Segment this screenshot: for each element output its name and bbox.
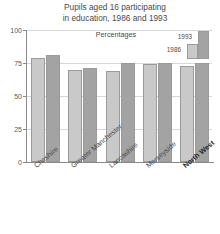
y-tick-label-75: 75 [2,60,22,67]
bar-merseyside-1986 [143,64,157,162]
y-tick-label-0: 0 [2,159,22,166]
bar-lancashire-1986 [106,71,120,162]
legend-label-1993: 1993 [178,33,192,40]
y-tick-label-100: 100 [2,27,22,34]
y-tick-mark-25 [23,129,26,130]
chart-title-line-2: in education, 1986 and 1993 [30,13,200,24]
y-tick-label-50: 50 [2,93,22,100]
y-tick-label-25: 25 [2,126,22,133]
bar-greater-manchester-1986 [68,70,82,162]
y-tick-mark-50 [23,96,26,97]
legend-swatch-1993 [198,31,209,59]
y-axis-tick-labels: 1007550250 [0,30,22,163]
chart-container: Pupils aged 16 participating in educatio… [0,0,220,234]
chart-title-line-1: Pupils aged 16 participating [30,2,200,13]
y-tick-mark-100 [23,30,26,31]
chart-title: Pupils aged 16 participating in educatio… [30,2,200,23]
bar-north-west-1986 [180,66,194,162]
chart-legend: 1993 1986 [160,30,216,64]
x-axis-tick-labels: CheshireGreater ManchesterLancashireMers… [26,163,220,234]
legend-swatch-1986 [187,44,198,59]
legend-label-1986: 1986 [167,46,181,53]
bar-cheshire-1986 [31,58,45,162]
y-tick-mark-75 [23,63,26,64]
